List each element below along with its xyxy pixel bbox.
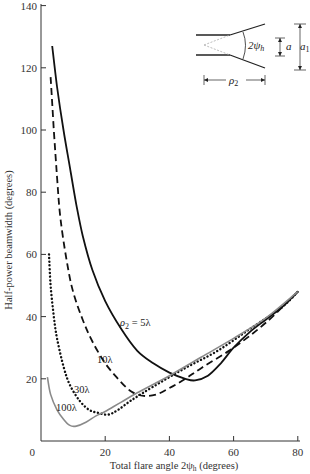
x-tick-label: 20 — [100, 446, 112, 458]
y-tick-label: 0 — [30, 446, 36, 458]
x-tick-label: 80 — [292, 446, 304, 458]
y-tick-label: 40 — [26, 311, 38, 323]
x-tick-label: 40 — [164, 446, 176, 458]
label-30-lambda: 30λ — [74, 384, 91, 395]
horn-inset-diagram: 2ψh a a1 ρ2 — [196, 24, 310, 88]
axes: 020406080100120140 20406080 — [21, 0, 304, 458]
inset-angle-arc — [243, 32, 246, 59]
inset-lower-flare — [230, 55, 265, 68]
inset-a-label: a — [286, 40, 292, 52]
inset-angle-label: 2ψh — [248, 39, 264, 53]
x-ticks: 20406080 — [100, 436, 304, 458]
label-100-lambda: 100λ — [56, 402, 78, 413]
y-tick-label: 120 — [21, 62, 38, 74]
inset-upper-flare — [230, 24, 265, 35]
y-tick-label: 60 — [26, 248, 38, 260]
beamwidth-chart: 020406080100120140 20406080 ρ2 = 5λ 10λ … — [0, 0, 310, 474]
y-tick-label: 80 — [26, 186, 38, 198]
curve-10 — [51, 77, 298, 396]
inset-apex-lower — [204, 45, 230, 55]
x-tick-label: 60 — [228, 446, 240, 458]
inset-rho-label: ρ2 — [228, 74, 238, 88]
y-tick-label: 140 — [21, 0, 38, 12]
curve-25 — [52, 46, 298, 381]
y-tick-label: 100 — [21, 124, 38, 136]
label-10-lambda: 10λ — [97, 354, 114, 365]
inset-arrowheads — [204, 24, 302, 82]
curves — [47, 46, 297, 426]
x-axis-title: Total flare angle 2ψh (degrees) — [110, 460, 239, 473]
y-ticks: 020406080100120140 — [21, 0, 47, 458]
inset-apex-upper — [204, 35, 230, 45]
y-axis-title: Half-power beamwidth (degrees) — [3, 170, 15, 310]
label-5-lambda: ρ2 = 5λ — [119, 317, 151, 331]
y-tick-label: 20 — [26, 373, 38, 385]
inset-a1-label: a1 — [300, 40, 310, 54]
